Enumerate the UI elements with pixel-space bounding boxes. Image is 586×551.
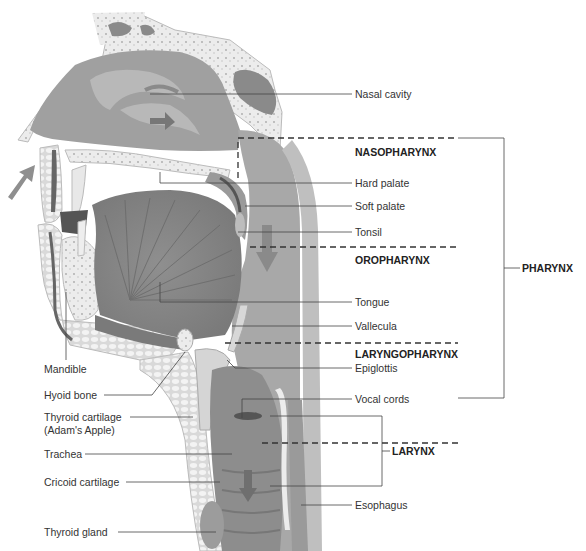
region-nasopharynx: NASOPHARYNX: [355, 146, 436, 158]
label-tongue: Tongue: [355, 296, 389, 308]
anatomy-diagram: Nasal cavity NASOPHARYNX Hard palate Sof…: [0, 0, 586, 551]
region-larynx: LARYNX: [392, 445, 435, 457]
region-laryngopharynx: LARYNGOPHARYNX: [355, 348, 458, 360]
label-soft-palate: Soft palate: [355, 200, 405, 212]
anatomy-illustration: [0, 0, 586, 551]
label-esophagus: Esophagus: [355, 499, 408, 511]
label-hard-palate: Hard palate: [355, 177, 409, 189]
label-trachea: Trachea: [44, 448, 82, 460]
hard-palate-shape: [65, 150, 230, 178]
region-pharynx: PHARYNX: [522, 262, 573, 274]
label-vocal-cords: Vocal cords: [355, 393, 409, 405]
label-thyroid-gland: Thyroid gland: [44, 526, 108, 538]
tongue-shape: [92, 190, 242, 340]
label-epiglottis: Epiglottis: [355, 362, 398, 374]
thyroid-gland-shape: [200, 501, 224, 549]
label-adams-apple: (Adam's Apple): [44, 424, 115, 436]
label-cricoid-cartilage: Cricoid cartilage: [44, 476, 119, 488]
nasal-cavity-shape: [30, 50, 240, 151]
label-thyroid-cartilage: Thyroid cartilage: [44, 411, 122, 423]
hyoid-shape: [177, 329, 193, 351]
label-nasal-cavity: Nasal cavity: [355, 88, 412, 100]
label-mandible: Mandible: [44, 363, 87, 375]
label-vallecula: Vallecula: [355, 320, 397, 332]
region-oropharynx: OROPHARYNX: [355, 254, 430, 266]
label-hyoid-bone: Hyoid bone: [44, 389, 97, 401]
label-tonsil: Tonsil: [355, 226, 382, 238]
